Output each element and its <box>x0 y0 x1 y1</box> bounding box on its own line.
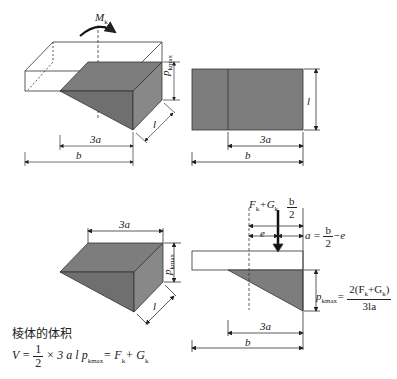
volume-caption: 棱体的体积 <box>12 324 72 341</box>
dim-b-top-left: b <box>76 150 82 161</box>
top-right-plan <box>192 69 320 166</box>
bottom-left-wedge <box>60 228 181 325</box>
dim-3a-bottom-left: 3a <box>119 219 130 230</box>
l-label-bottom-left: l <box>153 301 156 312</box>
top-left-wedge <box>60 62 162 130</box>
foundation-pressure-diagram: Mk pkmax l 3a b l 3a b 3a pkmax l 棱体的体积 … <box>0 0 397 379</box>
moment-label: Mk <box>95 12 108 26</box>
p-kmax-label-bottom: pkmax <box>162 254 176 275</box>
volume-formula: V = 12 × 3 a l pkmax= Fk+ Gk <box>12 343 148 370</box>
p-kmax-label-top: pkmax <box>160 55 174 76</box>
dim-3a-top-left: 3a <box>90 134 101 145</box>
half-b-label: b2 <box>287 195 297 220</box>
dim-3a-bottom-right: 3a <box>260 321 271 332</box>
dim-b-top-right: b <box>245 150 251 161</box>
l-label-top-right: l <box>307 96 310 107</box>
l-label-top-left: l <box>153 119 156 130</box>
bottom-right-section <box>192 208 320 352</box>
dim-b-bottom-right: b <box>245 337 251 348</box>
diagram-drawing <box>0 0 397 379</box>
force-label: Fk+Gk <box>249 199 278 213</box>
dim-3a-top-right: 3a <box>260 134 271 145</box>
e-label: e <box>260 228 265 239</box>
a-formula: a = b2−e <box>305 224 345 249</box>
p-kmax-formula: pkmax= 2(Fk+Gk)3la <box>316 283 391 312</box>
